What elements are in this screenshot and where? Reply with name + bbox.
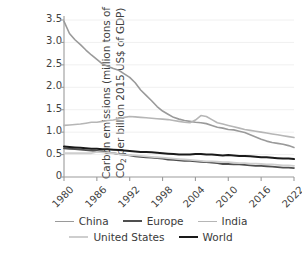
legend-item-china[interactable]: China [55, 215, 109, 227]
chart-legend: ChinaEuropeIndia United StatesWorld [0, 213, 302, 245]
legend-item-india[interactable]: India [198, 215, 248, 227]
legend-swatch-icon [179, 236, 198, 238]
legend-item-united-states[interactable]: United States [69, 231, 164, 243]
chart-figure: Carbon emissions (million tons of CO2 pe… [0, 0, 302, 257]
legend-label: Europe [147, 215, 184, 227]
legend-label: China [79, 215, 109, 227]
series-line-china [64, 21, 294, 147]
legend-swatch-icon [198, 221, 217, 222]
legend-label: United States [93, 231, 164, 243]
legend-swatch-icon [55, 221, 74, 222]
legend-label: India [222, 215, 248, 227]
grid-lines [64, 20, 294, 155]
legend-swatch-icon [123, 220, 142, 222]
legend-item-world[interactable]: World [179, 231, 233, 243]
legend-item-europe[interactable]: Europe [123, 215, 184, 227]
legend-row-2: United StatesWorld [0, 229, 302, 245]
data-series-group [64, 21, 294, 168]
legend-row-1: ChinaEuropeIndia [0, 213, 302, 229]
legend-label: World [203, 231, 233, 243]
legend-swatch-icon [69, 236, 88, 238]
